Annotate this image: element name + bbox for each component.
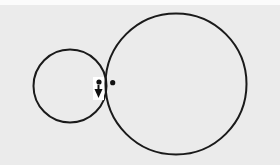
point-left-dot [96,79,101,84]
tangent-circles-diagram [0,0,280,165]
point-right-dot [110,80,115,85]
large-circle [106,14,247,155]
diagram-canvas [0,0,280,165]
